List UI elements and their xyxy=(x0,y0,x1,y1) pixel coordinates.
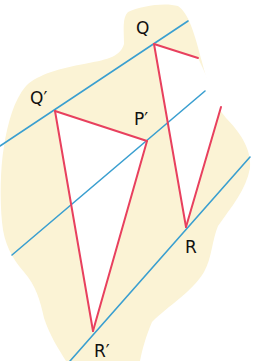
label-R: R xyxy=(185,237,197,257)
diagram-canvas: Q Q′ P′ R R′ xyxy=(0,0,258,361)
label-R-prime: R′ xyxy=(94,341,110,361)
label-Q-prime: Q′ xyxy=(30,88,47,108)
label-Q: Q xyxy=(136,18,149,38)
label-P-prime: P′ xyxy=(134,109,148,129)
diagram-svg: Q Q′ P′ R R′ xyxy=(0,0,258,361)
